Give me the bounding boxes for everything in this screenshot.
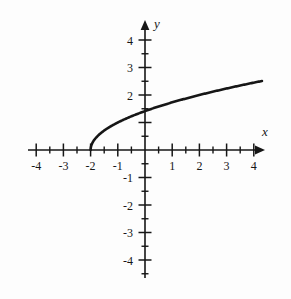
y-tick-label-pos2: 2 [127,89,133,103]
function-curve [91,98,145,150]
y-axis-arrow-icon [141,20,150,30]
x-tick-label-neg1: -1 [113,159,123,173]
y-tick-label-pos4: 4 [127,34,133,48]
y-axis-label: y [152,16,160,31]
x-axis-label: x [261,124,268,139]
y-tick-label-neg2: -2 [123,199,133,213]
cartesian-plot: -4 -3 -2 -1 1 2 3 4 4 3 2 -1 -2 -3 -4 y … [0,0,291,299]
x-tick-label-neg2: -2 [86,159,96,173]
x-tick-label-pos1: 1 [169,159,175,173]
x-tick-label-pos2: 2 [196,159,202,173]
y-tick-label-neg3: -3 [123,226,133,240]
x-tick-label-pos4: 4 [251,159,257,173]
y-tick-label-neg1: -1 [123,171,133,185]
x-tick-label-pos3: 3 [224,159,230,173]
graph-figure: -4 -3 -2 -1 1 2 3 4 4 3 2 -1 -2 -3 -4 y … [0,0,291,299]
x-tick-label-neg4: -4 [31,159,41,173]
x-tick-label-neg3: -3 [58,159,68,173]
x-axis-arrow-icon [255,146,265,155]
y-tick-label-pos3: 3 [127,61,133,75]
y-tick-label-neg4: -4 [123,254,133,268]
sqrt-curve [91,81,262,150]
